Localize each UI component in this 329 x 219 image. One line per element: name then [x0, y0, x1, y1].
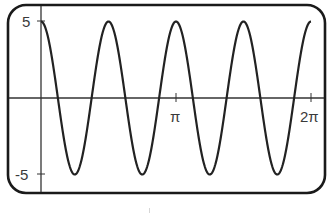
function-plot: 5 -5 π 2π [0, 0, 329, 219]
plot-frame [8, 5, 325, 193]
scan-artifact-mark [149, 208, 150, 213]
x-tick-label-2pi: 2π [300, 108, 319, 125]
y-tick-label-max: 5 [22, 13, 30, 30]
x-tick-label-pi: π [170, 108, 180, 125]
y-tick-label-min: -5 [15, 166, 28, 183]
